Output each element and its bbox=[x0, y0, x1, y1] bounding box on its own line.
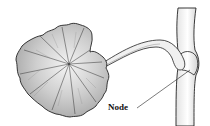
node-label: Node bbox=[108, 102, 128, 112]
leaf-node-diagram: Node bbox=[0, 0, 210, 126]
leaf-blade bbox=[16, 23, 109, 117]
petiole bbox=[101, 40, 185, 70]
